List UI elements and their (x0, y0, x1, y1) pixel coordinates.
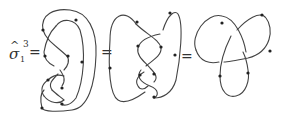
panel-closed-braid (41, 10, 96, 112)
knot-equation-figure: σ ^ 3 1 = = = (0, 0, 295, 127)
knot-diagrams (0, 0, 295, 127)
panel-trefoil (195, 15, 271, 96)
panel-intermediate (109, 13, 181, 102)
